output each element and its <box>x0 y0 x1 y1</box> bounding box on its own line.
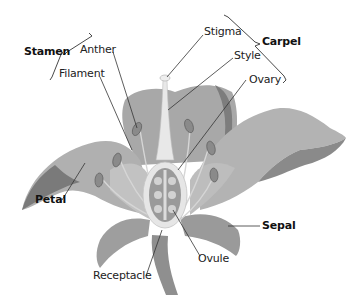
stigma <box>160 75 170 81</box>
label-filament: Filament <box>59 68 105 79</box>
label-ovary: Ovary <box>249 74 281 85</box>
label-sepal: Sepal <box>262 220 295 231</box>
label-petal: Petal <box>35 194 66 205</box>
label-stamen: Stamen <box>24 46 70 57</box>
label-receptacle: Receptacle <box>93 270 152 281</box>
label-stigma: Stigma <box>204 26 242 37</box>
label-style: Style <box>234 50 261 61</box>
right-sepal <box>180 214 240 256</box>
left-sepal <box>97 218 150 268</box>
label-anther: Anther <box>80 44 116 55</box>
label-carpel: Carpel <box>262 36 301 47</box>
stem <box>152 235 178 295</box>
flower-diagram: Stamen Anther Filament Stigma Carpel Sty… <box>0 0 359 295</box>
label-ovule: Ovule <box>198 253 229 264</box>
